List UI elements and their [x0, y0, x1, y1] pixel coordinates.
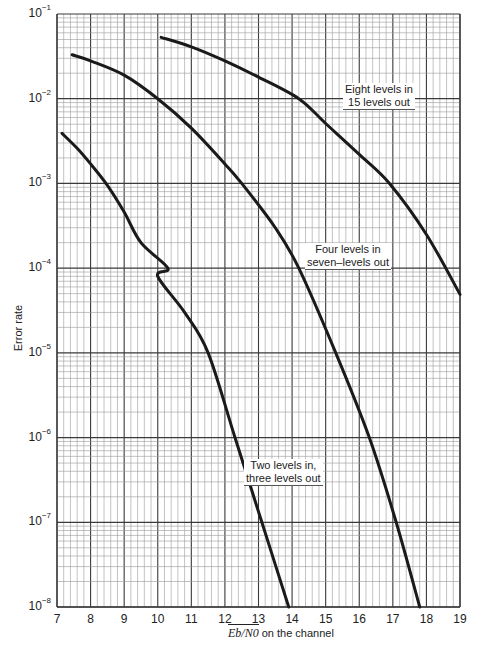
x-tick-label: 8: [81, 612, 101, 626]
y-tick-label: 10−7: [7, 513, 51, 528]
y-tick-label: 10−4: [7, 259, 51, 274]
x-tick-label: 10: [148, 612, 168, 626]
x-tick-label: 9: [114, 612, 134, 626]
x-tick-label: 19: [450, 612, 470, 626]
x-axis-symbol: Eb/N0: [228, 624, 259, 640]
curve-series-0: [62, 133, 289, 607]
y-tick-label: 10−8: [7, 598, 51, 613]
x-axis-title: Eb/N0 on the channel: [228, 626, 334, 641]
x-tick-label: 18: [416, 612, 436, 626]
curve-label: Four levels inseven–levels out: [305, 243, 391, 270]
y-axis-title: Error rate: [12, 298, 24, 358]
x-tick-label: 16: [349, 612, 369, 626]
y-tick-label: 10−6: [7, 429, 51, 444]
y-tick-label: 10−1: [7, 5, 51, 20]
y-tick-label: 10−2: [7, 90, 51, 105]
curves: [62, 37, 460, 607]
x-tick-label: 17: [383, 612, 403, 626]
x-tick-label: 7: [47, 612, 67, 626]
curve-label: Eight levels in15 levels out: [343, 83, 415, 110]
x-tick-label: 11: [181, 612, 201, 626]
x-tick-label: 14: [282, 612, 302, 626]
curve-label: Two levels in,three levels out: [244, 459, 323, 486]
y-tick-label: 10−3: [7, 174, 51, 189]
x-tick-label: 15: [316, 612, 336, 626]
x-axis-title-rest: on the channel: [262, 627, 334, 639]
